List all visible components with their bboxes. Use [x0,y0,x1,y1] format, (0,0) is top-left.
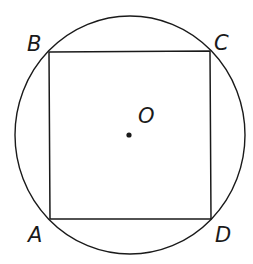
label-a: A [26,223,42,247]
center-point-o [126,132,131,137]
label-o: O [138,104,155,128]
label-d: D [215,223,231,247]
label-b: B [27,32,41,56]
label-c: C [214,31,229,55]
geometry-diagram: B C A D O [0,0,253,264]
